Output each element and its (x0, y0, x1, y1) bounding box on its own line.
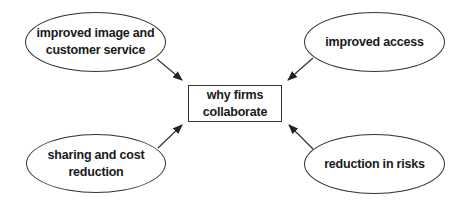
node-improved-access: improved access (304, 12, 445, 72)
center-node-why-firms-collaborate: why firms collaborate (188, 85, 282, 122)
node-sharing-cost-reduction: sharing and cost reduction (26, 134, 166, 193)
node-improved-image: improved image and customer service (25, 12, 166, 72)
arrow-top-right (288, 58, 313, 80)
diagram-canvas: improved image and customer service impr… (0, 0, 468, 212)
node-label: improved access (325, 34, 423, 51)
node-label: improved image and customer service (37, 25, 155, 59)
node-reduction-in-risks: reduction in risks (304, 134, 445, 194)
node-label: sharing and cost reduction (48, 147, 145, 181)
arrow-bottom-left (158, 125, 182, 148)
arrow-bottom-right (289, 125, 313, 149)
arrow-top-left (157, 59, 182, 80)
node-label: reduction in risks (324, 156, 425, 173)
center-label: why firms collaborate (203, 87, 268, 121)
